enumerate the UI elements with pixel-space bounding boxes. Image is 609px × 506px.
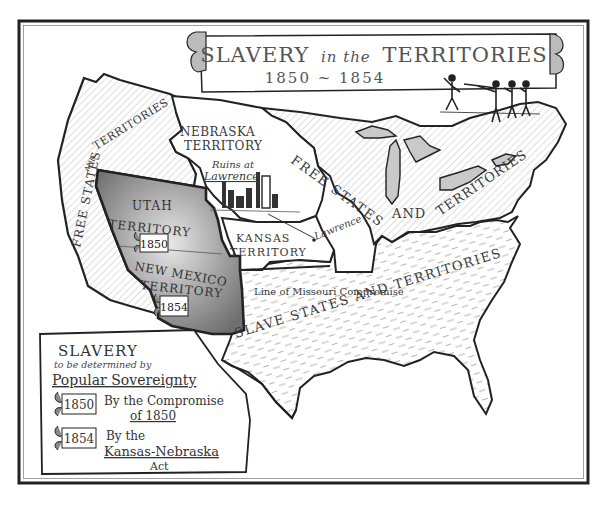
svg-text:AND: AND xyxy=(391,206,426,221)
legend-box: SLAVERY to be determined by Popular Sove… xyxy=(40,330,250,474)
title-years: 1850 ~ 1854 xyxy=(265,69,385,87)
legend-subheading: to be determined by xyxy=(54,359,152,370)
title-main: SLAVERY in the TERRITORIES xyxy=(200,43,547,67)
svg-text:Lawrence: Lawrence xyxy=(203,170,259,183)
svg-text:Ruins at: Ruins at xyxy=(211,159,255,170)
legend-heading2: Popular Sovereignty xyxy=(52,372,197,388)
svg-text:of 1850: of 1850 xyxy=(130,409,176,423)
svg-text:UTAH: UTAH xyxy=(132,199,173,213)
svg-text:1850: 1850 xyxy=(140,238,168,251)
svg-text:1854: 1854 xyxy=(64,432,95,446)
svg-text:Kansas-Nebraska: Kansas-Nebraska xyxy=(104,444,219,459)
svg-text:By the Compromise: By the Compromise xyxy=(104,394,224,408)
legend-heading: SLAVERY xyxy=(58,342,138,360)
svg-text:1850: 1850 xyxy=(64,398,95,412)
svg-text:NEBRASKA: NEBRASKA xyxy=(180,125,255,139)
svg-text:KANSAS: KANSAS xyxy=(236,232,290,245)
svg-text:TERRITORY: TERRITORY xyxy=(230,246,307,259)
svg-text:1854: 1854 xyxy=(160,301,188,314)
svg-text:By the: By the xyxy=(106,429,145,443)
svg-text:Act: Act xyxy=(149,460,169,473)
historical-map: SLAVERY in the TERRITORIES 1850 ~ 1854 F… xyxy=(0,0,609,506)
svg-text:TERRITORY: TERRITORY xyxy=(184,139,263,153)
title-scroll: SLAVERY in the TERRITORIES 1850 ~ 1854 xyxy=(187,32,564,92)
